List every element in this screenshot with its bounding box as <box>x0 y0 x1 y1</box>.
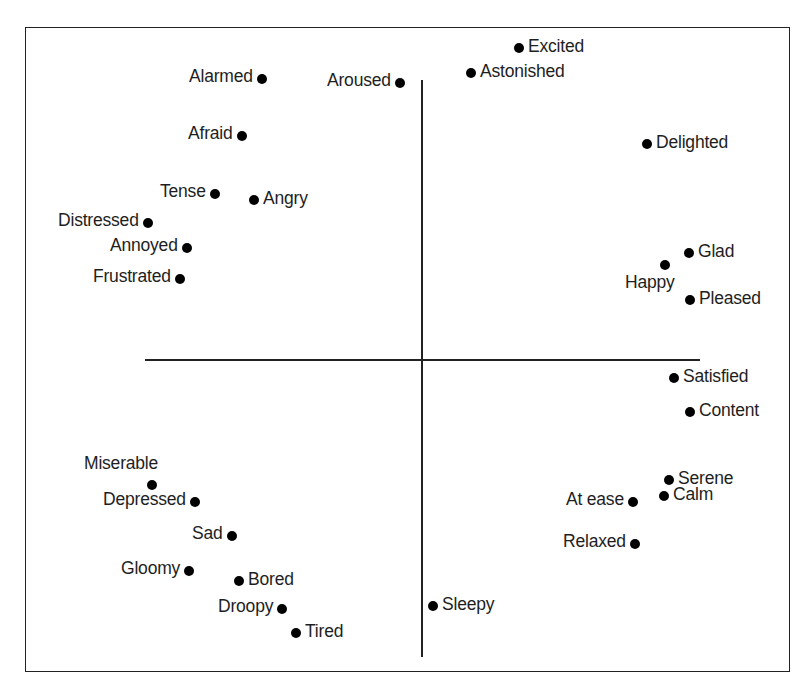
point-label-excited: Excited <box>528 38 584 56</box>
data-point-tense <box>210 189 220 199</box>
data-point-depressed <box>190 497 200 507</box>
point-label-afraid: Afraid <box>188 125 233 143</box>
point-label-frustrated: Frustrated <box>93 268 171 286</box>
point-label-droopy: Droopy <box>218 598 273 616</box>
data-point-calm <box>659 491 669 501</box>
data-point-sleepy <box>428 601 438 611</box>
point-label-tired: Tired <box>305 623 343 641</box>
point-label-calm: Calm <box>673 486 713 504</box>
point-label-aroused: Aroused <box>327 72 391 90</box>
data-point-aroused <box>395 78 405 88</box>
data-point-distressed <box>143 218 153 228</box>
data-point-afraid <box>237 131 247 141</box>
data-point-glad <box>684 248 694 258</box>
point-label-depressed: Depressed <box>103 491 186 509</box>
data-point-satisfied <box>669 373 679 383</box>
data-point-astonished <box>466 68 476 78</box>
point-label-annoyed: Annoyed <box>110 237 178 255</box>
point-label-happy: Happy <box>625 274 675 292</box>
data-point-frustrated <box>175 274 185 284</box>
point-label-sad: Sad <box>192 525 223 543</box>
point-label-miserable: Miserable <box>84 455 158 473</box>
point-label-content: Content <box>699 402 759 420</box>
data-point-angry <box>249 195 259 205</box>
point-label-at-ease: At ease <box>566 491 624 509</box>
point-label-sleepy: Sleepy <box>442 596 494 614</box>
point-label-gloomy: Gloomy <box>121 560 180 578</box>
point-label-satisfied: Satisfied <box>683 368 748 386</box>
data-point-happy <box>660 260 670 270</box>
data-point-droopy <box>277 604 287 614</box>
data-point-pleased <box>685 295 695 305</box>
vertical-axis <box>421 80 422 657</box>
data-point-tired <box>291 628 301 638</box>
data-point-gloomy <box>184 566 194 576</box>
point-label-astonished: Astonished <box>480 63 565 81</box>
data-point-relaxed <box>630 539 640 549</box>
point-label-delighted: Delighted <box>656 134 728 152</box>
data-point-delighted <box>642 139 652 149</box>
point-label-tense: Tense <box>160 183 206 201</box>
data-point-alarmed <box>257 74 267 84</box>
data-point-excited <box>514 43 524 53</box>
point-label-bored: Bored <box>248 571 294 589</box>
point-label-angry: Angry <box>263 190 308 208</box>
data-point-annoyed <box>182 243 192 253</box>
data-point-bored <box>234 576 244 586</box>
point-label-pleased: Pleased <box>699 290 761 308</box>
point-label-alarmed: Alarmed <box>189 68 253 86</box>
data-point-sad <box>227 531 237 541</box>
horizontal-axis <box>145 359 700 360</box>
point-label-distressed: Distressed <box>58 212 139 230</box>
data-point-content <box>685 407 695 417</box>
data-point-at-ease <box>628 497 638 507</box>
point-label-relaxed: Relaxed <box>563 533 626 551</box>
point-label-glad: Glad <box>698 243 734 261</box>
